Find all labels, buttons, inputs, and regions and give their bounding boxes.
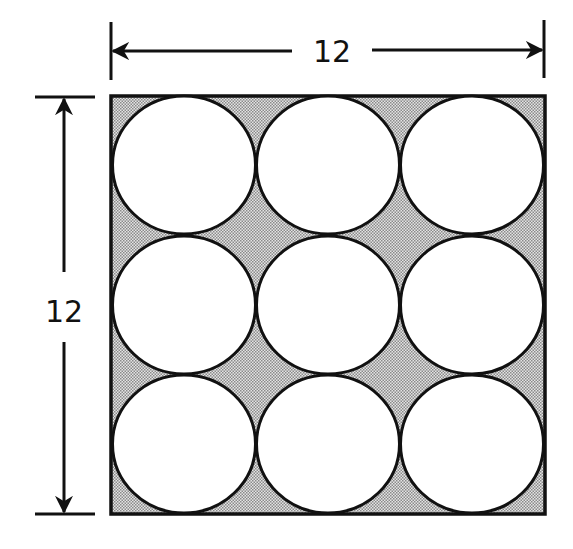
circle-r1-c2	[257, 96, 400, 234]
circle-r3-c1	[113, 375, 256, 513]
left-dimension-label: 12	[45, 294, 83, 329]
top-dimension-label: 12	[313, 34, 351, 69]
circle-r3-c3	[401, 375, 544, 513]
circle-grid	[113, 96, 544, 513]
circle-r2-c3	[401, 236, 544, 374]
circle-r3-c2	[257, 375, 400, 513]
circle-r1-c3	[401, 96, 544, 234]
left-dimension: 12	[35, 97, 95, 514]
circle-r2-c2	[257, 236, 400, 374]
circle-r1-c1	[113, 96, 256, 234]
top-dimension: 12	[111, 20, 544, 80]
diagram-canvas: 12 12	[0, 0, 573, 549]
circle-r2-c1	[113, 236, 256, 374]
